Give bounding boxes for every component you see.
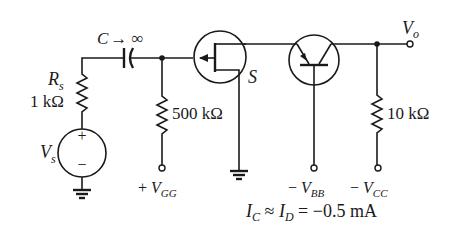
vbb-label: − VBB [288, 179, 325, 199]
vbb-terminal [311, 165, 317, 171]
load-resistor-value-label: 10 kΩ [387, 104, 429, 123]
rs-name-label: Rs [47, 69, 64, 93]
bjt-transistor [289, 35, 339, 165]
ground-icon [230, 171, 248, 179]
ac-voltage-source: + − [58, 127, 106, 177]
mosfet-source-label: S [248, 67, 257, 87]
bjt-emitter-arrow-icon [300, 53, 307, 61]
gate-resistor-value-label: 500 kΩ [172, 104, 223, 123]
capacitor-label: C→ ∞ [97, 29, 144, 48]
mosfet-arrow-icon [199, 54, 208, 62]
resistor-10k [372, 92, 382, 136]
vgg-label: + VGG [138, 179, 177, 199]
vgg-terminal [159, 165, 165, 171]
rs-value-label: 1 kΩ [30, 92, 64, 111]
source-minus-sign: − [77, 156, 86, 173]
mosfet-transistor [194, 31, 246, 83]
ground-icon [73, 190, 91, 198]
circuit-diagram: + − Vs Rs 1 kΩ C→ ∞ 500 kΩ + VGG S [0, 0, 455, 241]
resistor-rs [77, 70, 87, 115]
vo-terminal [407, 41, 413, 47]
vcc-label: − VCC [350, 179, 388, 199]
resistor-500k [157, 93, 167, 137]
current-equation: IC ≈ ID = −0.5 mA [245, 201, 377, 224]
source-label: Vs [40, 142, 56, 166]
vcc-terminal [375, 165, 381, 171]
rs-to-capacitor-wire [82, 58, 123, 70]
output-label: Vo [402, 18, 419, 41]
source-plus-sign: + [77, 127, 86, 144]
